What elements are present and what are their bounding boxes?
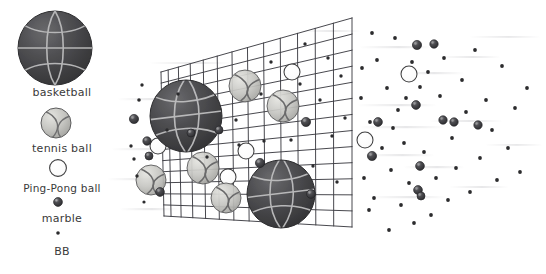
- marble-icon: [54, 198, 63, 207]
- marble: [215, 126, 223, 134]
- tennis-ball-icon: [41, 108, 71, 139]
- bb: [500, 64, 504, 68]
- marble: [450, 118, 458, 126]
- marble: [412, 101, 421, 110]
- bb: [259, 92, 262, 95]
- bb: [473, 48, 477, 52]
- basketball: [150, 80, 222, 152]
- bb: [269, 60, 272, 63]
- bb: [525, 86, 529, 90]
- legend-label-basketball: basketball: [0, 87, 124, 98]
- bb: [389, 168, 393, 172]
- bb: [422, 150, 426, 154]
- marble: [301, 117, 310, 126]
- bb: [367, 208, 371, 212]
- legend-label-marble: marble: [0, 213, 124, 224]
- bb: [205, 155, 208, 158]
- tennis-ball: [267, 90, 299, 122]
- bb: [360, 66, 364, 70]
- bb: [438, 94, 442, 98]
- bb: [375, 58, 379, 62]
- bb: [393, 36, 397, 40]
- bb: [368, 120, 372, 124]
- marble: [129, 114, 138, 123]
- bb: [468, 190, 472, 194]
- bb: [418, 85, 422, 89]
- bb: [318, 98, 321, 101]
- ping-pong-ball: [220, 169, 236, 185]
- marble: [187, 129, 195, 137]
- bb: [391, 126, 395, 130]
- marble: [474, 121, 482, 129]
- bb: [140, 83, 143, 86]
- bb: [407, 181, 411, 185]
- passed-particles: [129, 31, 529, 232]
- marble: [367, 151, 376, 160]
- bb: [234, 118, 237, 121]
- ping-pong-ball: [401, 66, 417, 82]
- bb: [404, 96, 408, 100]
- bb: [370, 31, 374, 35]
- marble: [156, 188, 165, 197]
- bb: [464, 110, 468, 114]
- marble: [412, 40, 421, 49]
- bb: [362, 176, 366, 180]
- bb: [387, 228, 391, 232]
- bb: [339, 74, 342, 77]
- legend-label-bb: BB: [0, 246, 124, 257]
- tennis-ball: [211, 183, 241, 213]
- bb: [137, 98, 141, 102]
- bb: [326, 56, 329, 59]
- bb: [402, 141, 406, 145]
- bb: [513, 106, 517, 110]
- ball-screen-illustration: [0, 0, 546, 274]
- ping-pong-ball: [357, 132, 373, 148]
- bb: [330, 134, 333, 137]
- bb-icon: [56, 231, 60, 235]
- bb: [385, 86, 389, 90]
- bb: [460, 78, 464, 82]
- tennis-ball: [229, 70, 261, 102]
- bb: [343, 116, 346, 119]
- bb: [484, 98, 488, 102]
- marble: [255, 158, 264, 167]
- bb: [454, 166, 458, 170]
- tennis-ball: [187, 152, 219, 184]
- bb: [429, 213, 433, 217]
- bb: [396, 108, 400, 112]
- marble: [145, 152, 153, 160]
- bb: [434, 176, 438, 180]
- legend-icons: [18, 11, 92, 235]
- bb: [298, 82, 301, 85]
- marble: [143, 137, 151, 145]
- bb: [142, 200, 145, 203]
- marble: [417, 192, 425, 200]
- bb: [446, 198, 450, 202]
- bb: [372, 196, 376, 200]
- bb: [132, 157, 135, 160]
- bb: [506, 146, 510, 150]
- bb: [410, 60, 414, 64]
- bb: [490, 128, 494, 132]
- bb: [303, 42, 306, 45]
- legend-label-tennis-ball: tennis ball: [0, 143, 124, 154]
- bb: [135, 174, 138, 177]
- bb: [311, 164, 314, 167]
- blocked-balls: [136, 64, 315, 228]
- marble: [416, 162, 425, 171]
- legend-label-ping-pong-ball: Ping-Pong ball: [0, 183, 124, 194]
- bb: [359, 96, 363, 100]
- marble: [374, 118, 383, 127]
- bb: [399, 203, 403, 207]
- bb: [495, 178, 499, 182]
- bb: [165, 128, 168, 131]
- bb: [450, 136, 454, 140]
- bb: [237, 143, 240, 146]
- bb: [176, 92, 179, 95]
- bb: [262, 139, 265, 142]
- illustration-figure: basketball tennis ball Ping-Pong ball ma…: [0, 0, 546, 274]
- basketball-icon: [18, 11, 92, 85]
- bb: [442, 56, 446, 60]
- bb: [426, 70, 430, 74]
- basketball: [247, 160, 315, 228]
